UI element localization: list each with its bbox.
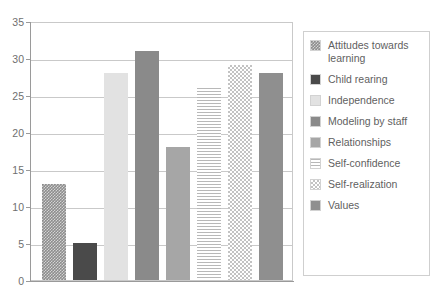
gridline-10	[31, 208, 292, 209]
gridline-30	[31, 60, 292, 61]
legend-item[interactable]: Attitudes towards learning	[310, 39, 424, 65]
legend-item-label: Self-confidence	[328, 157, 400, 170]
legend-item-label: Modeling by staff	[328, 115, 407, 128]
bar	[135, 51, 159, 280]
gridline-5	[31, 245, 292, 246]
y-tick-25	[26, 96, 31, 97]
legend-item-label: Child rearing	[328, 73, 388, 86]
bar	[259, 73, 283, 280]
bar	[104, 73, 128, 280]
y-axis-tick-label: 20	[0, 128, 24, 139]
y-tick-10	[26, 207, 31, 208]
legend-swatch-icon	[310, 116, 321, 127]
y-axis-tick-label: 5	[0, 239, 24, 250]
bar	[228, 65, 252, 280]
y-tick-0	[26, 281, 31, 282]
y-axis-line	[30, 22, 31, 282]
legend-item-label: Attitudes towards learning	[328, 39, 424, 65]
legend-item[interactable]: Independence	[310, 94, 424, 107]
plot-area	[30, 22, 293, 281]
legend-item[interactable]: Values	[310, 199, 424, 212]
gridline-20	[31, 134, 292, 135]
legend-swatch-icon	[310, 40, 321, 51]
legend-item[interactable]: Modeling by staff	[310, 115, 424, 128]
legend: Attitudes towards learningChild rearingI…	[303, 31, 430, 276]
bar	[197, 88, 221, 280]
legend-item-label: Relationships	[328, 136, 391, 149]
legend-item[interactable]: Self-realization	[310, 178, 424, 191]
gridline-25	[31, 97, 292, 98]
y-tick-30	[26, 59, 31, 60]
legend-swatch-icon	[310, 74, 321, 85]
y-tick-5	[26, 244, 31, 245]
legend-item-label: Values	[328, 199, 359, 212]
y-tick-15	[26, 170, 31, 171]
y-axis-tick-label: 0	[0, 276, 24, 287]
y-axis-tick-label: 30	[0, 54, 24, 65]
bar	[166, 147, 190, 280]
x-axis-line	[30, 281, 294, 282]
legend-item-label: Independence	[328, 94, 395, 107]
gridline-15	[31, 171, 292, 172]
legend-item[interactable]: Self-confidence	[310, 157, 424, 170]
legend-swatch-icon	[310, 95, 321, 106]
y-axis-tick-label: 15	[0, 165, 24, 176]
legend-swatch-icon	[310, 158, 321, 169]
legend-swatch-icon	[310, 137, 321, 148]
y-axis-tick-label: 25	[0, 91, 24, 102]
y-axis-tick-label: 10	[0, 202, 24, 213]
legend-item[interactable]: Child rearing	[310, 73, 424, 86]
bar	[42, 184, 66, 280]
legend-swatch-icon	[310, 179, 321, 190]
y-tick-35	[26, 22, 31, 23]
y-tick-20	[26, 133, 31, 134]
legend-item[interactable]: Relationships	[310, 136, 424, 149]
bar	[73, 243, 97, 280]
legend-swatch-icon	[310, 200, 321, 211]
bar-chart: 05101520253035 Attitudes towards learnin…	[0, 0, 437, 302]
y-axis-tick-label: 35	[0, 17, 24, 28]
legend-item-label: Self-realization	[328, 178, 397, 191]
